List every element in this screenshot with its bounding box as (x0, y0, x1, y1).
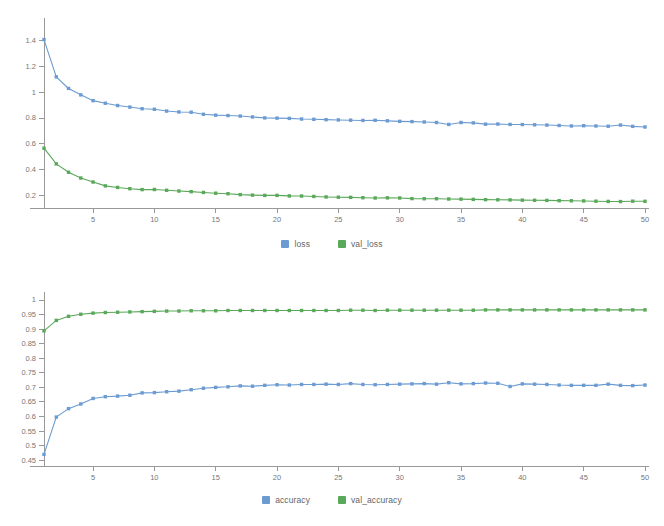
series-line-accuracy (44, 383, 645, 455)
data-point-accuracy (300, 383, 303, 386)
legend-item-val_loss[interactable]: val_loss (338, 240, 383, 249)
loss-chart-plot: 0.20.40.60.811.21.45101520253035404550 (0, 0, 664, 236)
data-point-val_loss (423, 197, 426, 200)
legend-swatch-icon (338, 496, 346, 504)
x-tick-label: 45 (580, 215, 588, 224)
data-point-val_accuracy (189, 309, 192, 312)
y-tick-label: 0.4 (26, 165, 36, 174)
data-point-accuracy (361, 383, 364, 386)
data-point-val_loss (508, 198, 511, 201)
y-tick-label: 0.9 (26, 325, 36, 334)
data-point-loss (643, 125, 646, 128)
legend-label: accuracy (275, 496, 310, 505)
data-point-val_accuracy (386, 308, 389, 311)
data-point-loss (496, 122, 499, 125)
x-tick-label: 20 (273, 215, 281, 224)
x-tick-label: 35 (457, 215, 465, 224)
data-point-loss (484, 122, 487, 125)
data-point-loss (239, 114, 242, 117)
data-point-val_accuracy (459, 308, 462, 311)
data-point-accuracy (472, 382, 475, 385)
y-tick-label: 0.6 (26, 139, 36, 148)
legend-item-val_accuracy[interactable]: val_accuracy (338, 496, 402, 505)
data-point-val_loss (55, 162, 58, 165)
data-point-val_loss (643, 200, 646, 203)
y-tick-label: 0.85 (21, 339, 36, 348)
data-point-accuracy (398, 382, 401, 385)
data-point-loss (128, 105, 131, 108)
data-point-loss (582, 124, 585, 127)
data-point-loss (251, 115, 254, 118)
data-point-loss (423, 120, 426, 123)
x-tick-label: 50 (641, 473, 649, 482)
data-point-loss (55, 75, 58, 78)
data-point-accuracy (410, 382, 413, 385)
y-tick-label: 0.75 (21, 368, 36, 377)
data-point-loss (226, 114, 229, 117)
data-point-loss (472, 121, 475, 124)
data-point-val_loss (189, 190, 192, 193)
data-point-val_accuracy (104, 311, 107, 314)
data-point-val_accuracy (165, 309, 168, 312)
x-tick-label: 30 (396, 473, 404, 482)
data-point-loss (116, 104, 119, 107)
data-point-loss (631, 125, 634, 128)
data-point-accuracy (251, 385, 254, 388)
legend-item-accuracy[interactable]: accuracy (262, 496, 310, 505)
y-tick-label: 1.2 (26, 62, 36, 71)
data-point-val_accuracy (533, 308, 536, 311)
data-point-accuracy (312, 383, 315, 386)
x-tick-label: 40 (518, 473, 526, 482)
data-point-loss (153, 108, 156, 111)
legend-item-loss[interactable]: loss (281, 240, 310, 249)
legend-swatch-icon (281, 240, 289, 248)
data-point-loss (275, 116, 278, 119)
data-point-val_accuracy (239, 309, 242, 312)
data-point-accuracy (607, 382, 610, 385)
data-point-loss (312, 118, 315, 121)
data-point-accuracy (435, 382, 438, 385)
data-point-loss (202, 113, 205, 116)
data-point-val_accuracy (361, 308, 364, 311)
loss-chart-panel: 0.20.40.60.811.21.45101520253035404550 (0, 0, 664, 262)
data-point-val_loss (582, 199, 585, 202)
data-point-accuracy (631, 384, 634, 387)
legend-label: loss (294, 240, 310, 249)
data-point-val_loss (594, 199, 597, 202)
data-point-accuracy (484, 381, 487, 384)
data-point-loss (607, 125, 610, 128)
y-tick-label: 0.65 (21, 397, 36, 406)
y-tick-label: 0.8 (26, 113, 36, 122)
y-tick-label: 0.5 (26, 441, 36, 450)
data-point-val_accuracy (177, 309, 180, 312)
data-point-loss (386, 119, 389, 122)
y-tick-label: 0.8 (26, 354, 36, 363)
data-point-val_loss (631, 199, 634, 202)
data-point-val_accuracy (263, 309, 266, 312)
data-point-accuracy (373, 383, 376, 386)
data-point-loss (557, 124, 560, 127)
data-point-val_loss (104, 184, 107, 187)
data-point-accuracy (349, 382, 352, 385)
data-point-val_loss (251, 193, 254, 196)
data-point-loss (337, 118, 340, 121)
x-tick-label: 35 (457, 473, 465, 482)
accuracy-chart-legend: accuracyval_accuracy (0, 496, 664, 505)
data-point-accuracy (140, 391, 143, 394)
y-tick-label: 0.95 (21, 310, 36, 319)
data-point-val_loss (607, 200, 610, 203)
data-point-loss (521, 123, 524, 126)
data-point-loss (67, 87, 70, 90)
data-point-val_loss (153, 188, 156, 191)
data-point-loss (177, 110, 180, 113)
data-point-val_loss (484, 198, 487, 201)
y-tick-label: 0.45 (21, 456, 36, 465)
data-point-val_accuracy (582, 308, 585, 311)
data-point-accuracy (324, 382, 327, 385)
data-point-accuracy (459, 382, 462, 385)
series-line-loss (44, 40, 645, 127)
data-point-loss (361, 119, 364, 122)
data-point-val_accuracy (140, 310, 143, 313)
data-point-accuracy (128, 394, 131, 397)
x-tick-label: 20 (273, 473, 281, 482)
